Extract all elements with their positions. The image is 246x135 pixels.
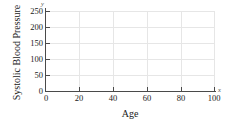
y-tick-label-150: 150 — [3, 39, 43, 48]
gridline-horizontal-100 — [45, 59, 215, 60]
x-tick-label-100: 100 — [194, 93, 234, 103]
x-tick-40 — [113, 87, 114, 91]
gridline-vertical-20 — [79, 11, 80, 91]
x-tick-80 — [181, 87, 182, 91]
y-tick-label-50: 50 — [3, 71, 43, 80]
x-tick-60 — [147, 87, 148, 91]
blood-pressure-vs-age-chart: 250 200 150 100 50 0 0 20 40 60 80 100 y… — [0, 0, 246, 135]
y-tick-label-250: 250 — [3, 7, 43, 16]
x-axis-variable-marker: x — [218, 86, 221, 93]
x-axis-line — [45, 91, 216, 92]
y-axis-line — [45, 8, 46, 91]
gridline-horizontal-150 — [45, 43, 215, 44]
x-axis-title: Age — [45, 108, 215, 120]
x-tick-100 — [214, 87, 215, 91]
gridline-horizontal-200 — [45, 27, 215, 28]
y-axis-variable-marker: y — [41, 0, 44, 7]
gridline-vertical-100 — [214, 11, 215, 91]
plot-area — [45, 11, 215, 91]
y-tick-150 — [46, 43, 50, 44]
y-tick-200 — [46, 27, 50, 28]
gridline-horizontal-250 — [45, 11, 215, 12]
gridline-horizontal-50 — [45, 75, 215, 76]
x-tick-20 — [79, 87, 80, 91]
gridline-vertical-80 — [181, 11, 182, 91]
y-tick-label-100: 100 — [3, 55, 43, 64]
gridline-vertical-60 — [147, 11, 148, 91]
gridline-vertical-40 — [113, 11, 114, 91]
y-tick-50 — [46, 75, 50, 76]
y-tick-label-200: 200 — [3, 23, 43, 32]
y-axis-title: Systolic Blood Pressure — [11, 3, 22, 103]
y-tick-100 — [46, 59, 50, 60]
y-tick-250 — [46, 11, 50, 12]
